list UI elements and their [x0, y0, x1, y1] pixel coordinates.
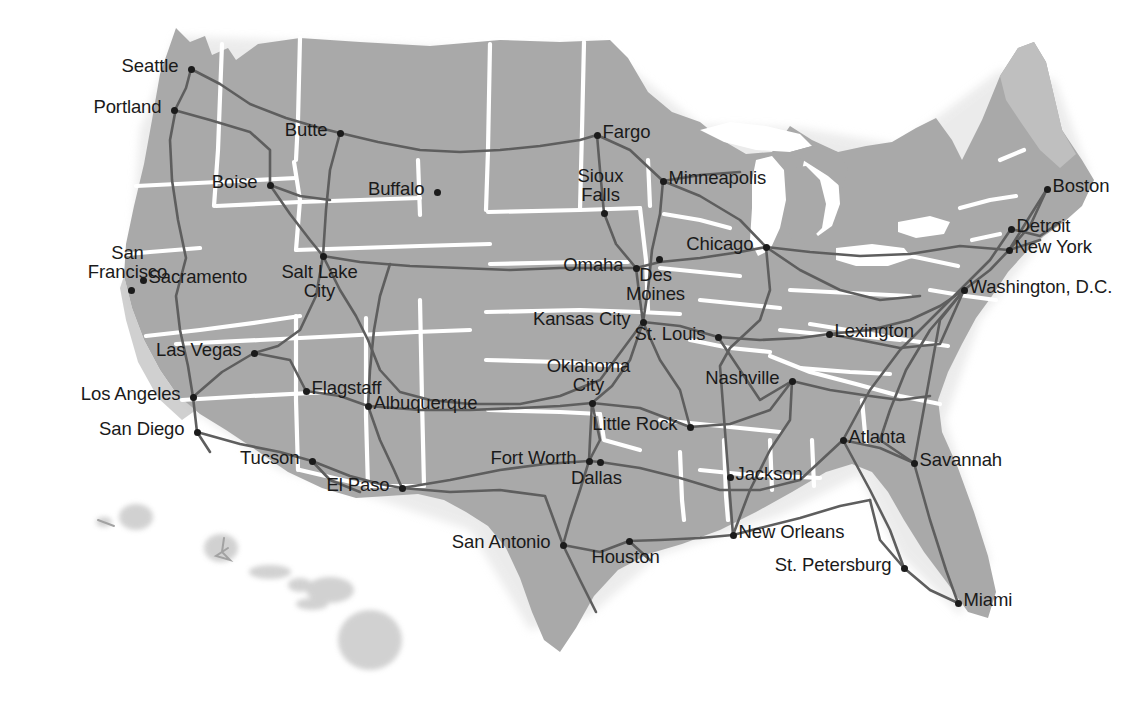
city-label: Boston: [1053, 176, 1110, 195]
city-dot-icon: [309, 458, 316, 465]
city-label: Los Angeles: [81, 384, 181, 403]
city-dot-icon: [840, 437, 847, 444]
city-dot-icon: [399, 485, 406, 492]
city-dot-icon: [171, 107, 178, 114]
city-label: Nashville: [705, 368, 779, 387]
city-label: Omaha: [563, 255, 623, 274]
city-dot-icon: [594, 132, 601, 139]
city-label: El Paso: [326, 475, 389, 494]
city-dot-icon: [303, 388, 310, 395]
hawaii-islands: [96, 504, 402, 670]
city-dot-icon: [911, 460, 918, 467]
city-label: Tucson: [240, 448, 299, 467]
city-label: Atlanta: [849, 427, 906, 446]
city-dot-icon: [128, 287, 135, 294]
city-dot-icon: [955, 600, 962, 607]
city-dot-icon: [1044, 186, 1051, 193]
city-label: Detroit: [1017, 216, 1071, 235]
city-label: St. Petersburg: [775, 555, 892, 574]
city-label: San Diego: [99, 419, 185, 438]
city-dot-icon: [194, 429, 201, 436]
city-dot-icon: [589, 400, 596, 407]
city-dot-icon: [251, 350, 258, 357]
city-label: Salt Lake City: [281, 262, 357, 300]
city-dot-icon: [715, 334, 722, 341]
city-label: Sioux Falls: [578, 166, 624, 204]
city-dot-icon: [826, 331, 833, 338]
city-label: Houston: [591, 547, 659, 566]
city-label: Miami: [964, 590, 1013, 609]
city-label: Las Vegas: [156, 340, 242, 359]
city-label: Minneapolis: [669, 168, 767, 187]
city-label: San Francisco: [88, 243, 167, 281]
city-dot-icon: [730, 532, 737, 539]
city-dot-icon: [560, 542, 567, 549]
city-label: Chicago: [686, 234, 753, 253]
city-label: New York: [1015, 237, 1092, 256]
city-dot-icon: [901, 565, 908, 572]
city-dot-icon: [601, 210, 608, 217]
city-dot-icon: [188, 66, 195, 73]
city-dot-icon: [727, 474, 734, 481]
city-label: St. Louis: [634, 324, 705, 343]
city-dot-icon: [626, 538, 633, 545]
city-dot-icon: [1008, 226, 1015, 233]
city-label: Fargo: [603, 122, 651, 141]
city-dot-icon: [597, 459, 604, 466]
city-label: Seattle: [122, 56, 179, 75]
city-dot-icon: [687, 424, 694, 431]
city-dot-icon: [586, 458, 593, 465]
city-label: Savannah: [920, 450, 1003, 469]
city-label: Flagstaff: [312, 378, 382, 397]
city-label: Des Moines: [626, 265, 685, 303]
city-label: Washington, D.C.: [970, 277, 1113, 296]
city-dot-icon: [789, 378, 796, 385]
city-label: Portland: [93, 97, 161, 116]
city-label: Jackson: [736, 464, 803, 483]
city-label: Lexington: [835, 321, 914, 340]
city-label: Kansas City: [533, 309, 631, 328]
city-label: Little Rock: [592, 414, 677, 433]
city-label: New Orleans: [739, 522, 845, 541]
city-label: Buffalo: [368, 179, 425, 198]
city-dot-icon: [320, 253, 327, 260]
city-dot-icon: [660, 178, 667, 185]
city-label: Dallas: [571, 468, 622, 487]
city-label: Butte: [285, 120, 328, 139]
city-dot-icon: [656, 256, 663, 263]
city-dot-icon: [434, 189, 441, 196]
city-label: Oklahoma City: [547, 356, 631, 394]
city-label: Albuquerque: [374, 393, 478, 412]
city-dot-icon: [190, 394, 197, 401]
city-dot-icon: [365, 403, 372, 410]
city-label: Fort Worth: [490, 448, 576, 467]
us-highway-map: SeattlePortlandButteBoiseBuffaloFargoMin…: [0, 0, 1136, 708]
city-label: San Antonio: [452, 532, 551, 551]
city-dot-icon: [267, 182, 274, 189]
city-label: Boise: [212, 172, 258, 191]
city-dot-icon: [961, 287, 968, 294]
city-dot-icon: [1006, 247, 1013, 254]
city-dot-icon: [337, 130, 344, 137]
city-dot-icon: [763, 244, 770, 251]
